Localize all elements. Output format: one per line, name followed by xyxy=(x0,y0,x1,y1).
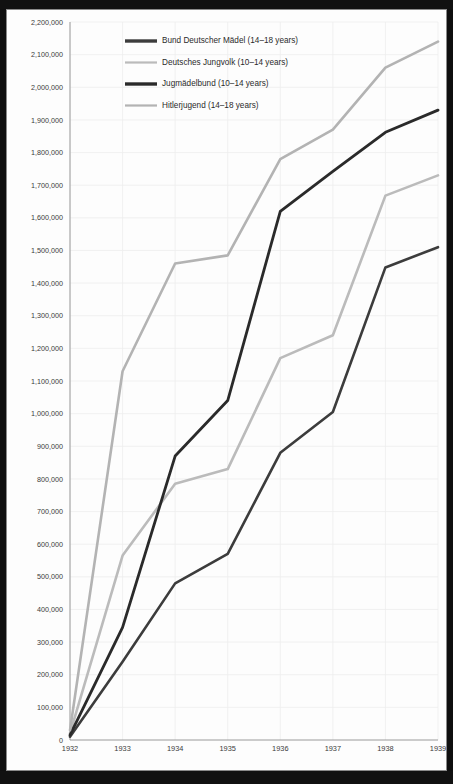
y-axis-tick-label: 1,400,000 xyxy=(31,279,63,288)
series-line xyxy=(70,247,438,737)
y-axis-tick-label: 1,000,000 xyxy=(31,409,63,418)
y-axis-tick-label: 800,000 xyxy=(37,475,63,484)
top-border-band xyxy=(0,0,453,9)
y-axis-tick-label: 1,700,000 xyxy=(31,181,63,190)
y-axis-tick-label: 2,000,000 xyxy=(31,83,63,92)
y-axis-tick-label: 600,000 xyxy=(37,540,63,549)
chart-frame: 0100,000200,000300,000400,000500,000600,… xyxy=(6,9,447,771)
x-axis-tick-label: 1933 xyxy=(114,744,130,753)
y-axis-tick-label: 300,000 xyxy=(37,638,63,647)
series-line xyxy=(70,175,438,733)
y-axis-tick-label: 2,100,000 xyxy=(31,50,63,59)
data-series-group xyxy=(70,42,438,737)
legend-label: Deutsches Jungvolk (10–14 years) xyxy=(162,58,288,67)
x-axis-tick-label: 1937 xyxy=(325,744,341,753)
y-axis-tick-label: 1,800,000 xyxy=(31,148,63,157)
chart-page: 0100,000200,000300,000400,000500,000600,… xyxy=(0,0,453,784)
series-line xyxy=(70,42,438,731)
y-axis-tick-label: 1,900,000 xyxy=(31,116,63,125)
y-axis-tick-label: 500,000 xyxy=(37,572,63,581)
x-axis-tick-label: 1939 xyxy=(430,744,446,753)
legend-label: Hitlerjugend (14–18 years) xyxy=(162,101,259,110)
x-axis-tick-label: 1934 xyxy=(167,744,183,753)
legend-label: Bund Deutscher Mädel (14–18 years) xyxy=(162,36,298,45)
x-axis-tick-label: 1932 xyxy=(62,744,78,753)
bottom-border-band xyxy=(0,771,453,784)
y-axis-tick-label: 2,200,000 xyxy=(31,18,63,27)
y-axis-tick-labels: 0100,000200,000300,000400,000500,000600,… xyxy=(31,18,63,745)
chart-area: 0100,000200,000300,000400,000500,000600,… xyxy=(7,10,446,770)
y-axis-tick-label: 1,500,000 xyxy=(31,246,63,255)
x-axis-tick-labels: 19321933193419351936193719381939 xyxy=(62,744,446,753)
y-axis-tick-label: 700,000 xyxy=(37,507,63,516)
legend-label: Jugmädelbund (10–14 years) xyxy=(162,79,269,88)
y-axis-tick-label: 1,300,000 xyxy=(31,311,63,320)
x-axis-tick-label: 1936 xyxy=(272,744,288,753)
y-axis-tick-label: 100,000 xyxy=(37,703,63,712)
x-axis-tick-label: 1935 xyxy=(219,744,235,753)
y-axis-tick-label: 900,000 xyxy=(37,442,63,451)
x-axis-tick-label: 1938 xyxy=(377,744,393,753)
y-axis-tick-label: 400,000 xyxy=(37,605,63,614)
line-chart: 0100,000200,000300,000400,000500,000600,… xyxy=(7,10,446,770)
y-axis-tick-label: 1,600,000 xyxy=(31,213,63,222)
legend: Bund Deutscher Mädel (14–18 years)Deutsc… xyxy=(125,36,298,110)
y-axis-tick-label: 1,100,000 xyxy=(31,377,63,386)
y-axis-tick-label: 1,200,000 xyxy=(31,344,63,353)
y-axis-tick-label: 200,000 xyxy=(37,670,63,679)
